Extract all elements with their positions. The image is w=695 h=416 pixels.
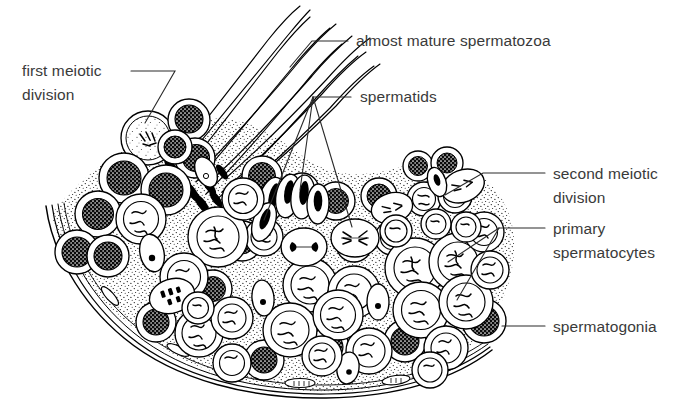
cell-primary-spermatocyte	[116, 194, 166, 244]
cell-second-meiotic-division	[331, 219, 379, 257]
cell-germ	[211, 297, 253, 339]
cell-germ	[302, 336, 342, 376]
cell-germ	[412, 352, 448, 388]
label-second-meiotic-division-line1: second meiotic	[553, 165, 658, 182]
cell-germ	[421, 209, 451, 239]
cell-germ	[380, 215, 412, 247]
cell-germ	[182, 292, 214, 324]
myoid-nucleus	[285, 379, 315, 388]
cell-germ	[213, 344, 251, 382]
figure-canvas: first meiotic division almost mature spe…	[0, 0, 695, 416]
cell-spermatogonium	[87, 235, 129, 277]
label-primary-spermatocytes-line1: primary	[553, 220, 606, 237]
leader-almost-mature-spermatozoa	[290, 41, 348, 67]
label-primary-spermatocytes-line2: spermatocytes	[553, 244, 655, 261]
label-second-meiotic-division-line2: division	[553, 189, 606, 206]
label-spermatids: spermatids	[360, 88, 437, 105]
cell-sertoli	[367, 284, 389, 320]
cell-germ	[158, 130, 192, 164]
cell-second-meiotic-division	[281, 228, 327, 266]
cell-germ	[451, 212, 481, 242]
cell-germ	[471, 251, 509, 289]
label-first-meiotic-division-line2: division	[22, 86, 75, 103]
label-spermatogonia: spermatogonia	[553, 318, 657, 335]
label-almost-mature-spermatozoa: almost mature spermatozoa	[356, 32, 551, 49]
cell-primary-spermatocyte	[222, 178, 264, 220]
label-first-meiotic-division-line1: first meiotic	[22, 62, 102, 79]
spermatogenesis-diagram: first meiotic division almost mature spe…	[0, 0, 695, 416]
